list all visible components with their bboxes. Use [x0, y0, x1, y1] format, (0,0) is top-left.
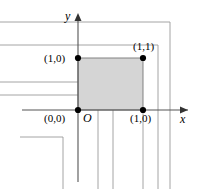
contour-line-5 — [20, 137, 63, 189]
y-axis-label: y — [65, 10, 70, 22]
coordinate-diagram: y x O (1,0) (1,1) (0,0) (1,0) — [0, 0, 199, 189]
diagram-canvas — [0, 0, 199, 189]
point-label-top-left: (1,0) — [44, 53, 65, 64]
point-label-bottom-right: (1,0) — [130, 113, 151, 124]
point-top-right — [140, 55, 146, 61]
point-label-bottom-left: (0,0) — [44, 113, 65, 124]
point-label-top-right: (1,1) — [133, 41, 154, 52]
point-top-left — [75, 55, 81, 61]
origin-label: O — [83, 112, 92, 124]
y-axis-arrowhead — [75, 13, 82, 21]
x-axis-label: x — [180, 113, 185, 125]
point-bottom-left — [75, 107, 81, 113]
shaded-region — [78, 58, 143, 110]
